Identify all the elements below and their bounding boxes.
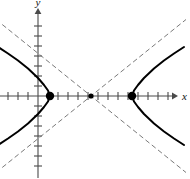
x-axis-label: x	[181, 90, 187, 102]
hyperbola-figure: x y	[0, 0, 190, 179]
axes-group	[0, 8, 178, 178]
right-vertex-point	[128, 92, 136, 100]
left-vertex-point	[46, 92, 54, 100]
plot-canvas: x y	[0, 0, 190, 179]
y-axis-label: y	[35, 0, 41, 8]
center-point	[88, 93, 93, 98]
y-axis-arrow-icon	[35, 8, 42, 14]
x-axis-arrow-icon	[172, 93, 178, 100]
